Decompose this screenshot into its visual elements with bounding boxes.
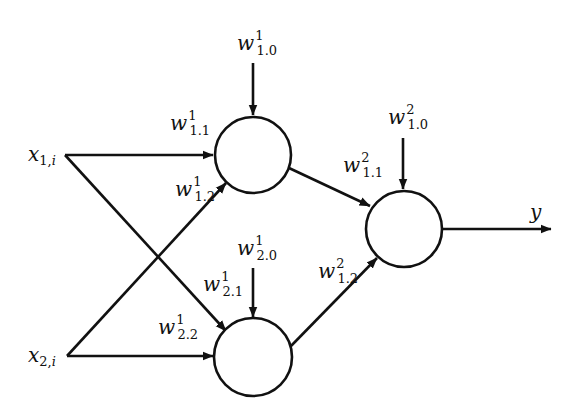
hidden-node-2 <box>214 318 292 396</box>
weight-label-w1-20: w12.0 <box>237 233 277 263</box>
weight-label-w1-12: w11.2 <box>175 174 215 204</box>
neural-network-diagram: x1,i x2,i y w11.0 w11.1 w11.2 w12.0 w12.… <box>0 0 576 412</box>
weight-label-w2-11: w21.1 <box>343 150 383 180</box>
weight-label-w2-12: w21.2 <box>318 256 358 286</box>
input-label-x1: x1,i <box>28 142 56 168</box>
hidden-node-1 <box>215 117 291 193</box>
output-label-y: y <box>529 200 542 224</box>
weight-label-w1-22: w12.2 <box>158 312 198 342</box>
weight-label-w1-21: w12.1 <box>203 269 243 299</box>
output-node <box>366 191 442 267</box>
edge-x2-hidden1 <box>67 183 226 356</box>
edge-x1-hidden2 <box>65 155 226 331</box>
input-label-x2: x2,i <box>28 343 56 369</box>
weight-label-w1-11: w11.1 <box>170 108 210 138</box>
weight-label-w1-10: w11.0 <box>237 28 277 58</box>
weight-label-w2-10: w21.0 <box>388 102 428 132</box>
